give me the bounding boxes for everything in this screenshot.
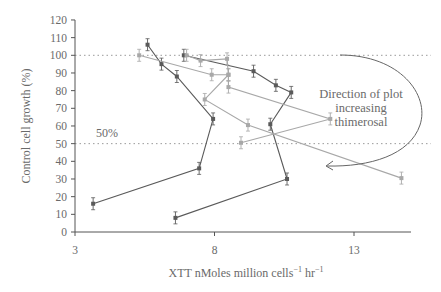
y-axis-label: Control cell growth (%) xyxy=(19,69,33,184)
series-2-line xyxy=(175,55,291,218)
y-tick-label: 90 xyxy=(56,67,68,79)
data-point xyxy=(328,117,332,121)
reference-label: 50% xyxy=(96,126,118,140)
series-1-line xyxy=(93,45,213,204)
data-point xyxy=(226,85,230,89)
data-point xyxy=(274,83,278,87)
y-tick-label: 30 xyxy=(56,173,68,185)
arrowhead-icon xyxy=(326,161,333,170)
data-series xyxy=(91,39,403,224)
data-point xyxy=(211,117,215,121)
x-tick-label: 3 xyxy=(72,244,78,256)
data-point xyxy=(137,53,141,57)
y-tick-label: 100 xyxy=(50,49,68,61)
y-tick-label: 0 xyxy=(61,226,67,238)
annotation-text: thimerosal xyxy=(335,115,388,129)
data-point xyxy=(226,73,230,77)
data-point xyxy=(268,122,272,126)
y-tick-label: 70 xyxy=(56,102,68,114)
axes: 01020304050607080901001101203813XTT nMol… xyxy=(19,14,411,280)
data-point xyxy=(159,62,163,66)
series-3-line xyxy=(139,55,330,142)
data-point xyxy=(173,216,177,220)
data-point xyxy=(225,57,229,61)
data-point xyxy=(399,176,403,180)
data-point xyxy=(246,123,250,127)
data-point xyxy=(185,53,189,57)
data-point xyxy=(197,166,201,170)
y-tick-label: 80 xyxy=(56,85,68,97)
x-tick-label: 13 xyxy=(348,244,360,256)
y-tick-label: 110 xyxy=(50,32,67,44)
data-point xyxy=(252,69,256,73)
data-point xyxy=(199,59,203,63)
chart: 50% 01020304050607080901001101203813XTT … xyxy=(0,0,441,292)
data-point xyxy=(239,141,243,145)
data-point xyxy=(289,90,293,94)
y-tick-label: 20 xyxy=(56,191,68,203)
data-point xyxy=(203,97,207,101)
data-point xyxy=(210,73,214,77)
data-point xyxy=(146,43,150,47)
y-tick-label: 120 xyxy=(50,14,68,26)
annotation: Direction of plotincreasingthimerosal xyxy=(319,55,422,170)
annotation-text: increasing xyxy=(335,101,387,115)
annotation-text: Direction of plot xyxy=(319,87,403,101)
y-tick-label: 60 xyxy=(56,120,68,132)
x-tick-label: 8 xyxy=(212,244,218,256)
y-tick-label: 10 xyxy=(56,208,68,220)
data-point xyxy=(285,177,289,181)
y-tick-label: 50 xyxy=(56,138,68,150)
data-point xyxy=(175,75,179,79)
data-point xyxy=(91,202,95,206)
y-tick-label: 40 xyxy=(56,155,68,167)
x-axis-label: XTT nMoles million cells−1 hr−1 xyxy=(169,265,324,280)
